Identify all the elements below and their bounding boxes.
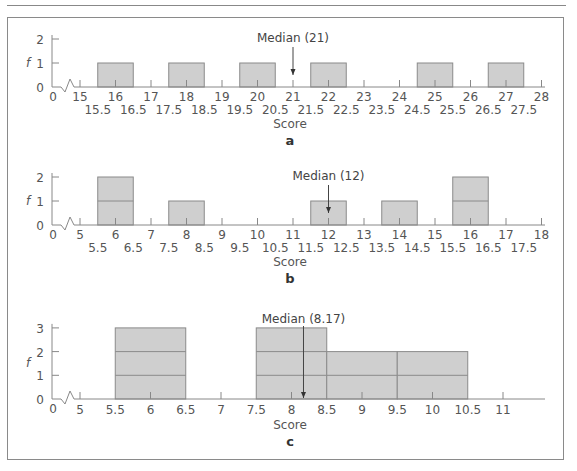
x-tick-label: 24 [392, 90, 407, 104]
x-tick-label: 15 [427, 228, 442, 242]
y-tick-label: 0 [36, 393, 44, 407]
x-boundary-label: 22.5 [333, 103, 360, 117]
histogram-bar [256, 328, 327, 399]
x-boundary-label: 18.5 [191, 103, 218, 117]
x-tick-label: 9.5 [388, 403, 407, 417]
x-origin-label: 0 [49, 402, 57, 416]
median-label: Median (12) [292, 169, 364, 183]
x-tick-label: 10 [250, 228, 265, 242]
x-boundary-label: 23.5 [368, 103, 395, 117]
panel-label: c [286, 434, 294, 449]
panel-b: 012f0567891011121314151617185.56.57.58.5… [26, 169, 549, 286]
y-tick-label: 1 [36, 57, 44, 71]
x-origin-label: 0 [49, 90, 57, 104]
panel-c: 0123f055.566.577.588.599.51010.511Scorec… [26, 312, 545, 449]
panel-a: 012f0151617181920212223242526272815.516.… [26, 31, 549, 148]
x-boundary-label: 10.5 [262, 241, 289, 255]
x-tick-label: 11 [285, 228, 300, 242]
x-tick-label: 27 [498, 90, 513, 104]
y-axis-label: f [26, 356, 32, 370]
x-axis-title: Score [273, 117, 307, 131]
x-boundary-label: 17.5 [510, 241, 537, 255]
x-boundary-label: 15.5 [439, 241, 466, 255]
x-tick-label: 6.5 [176, 403, 195, 417]
x-tick-label: 8 [288, 403, 296, 417]
x-boundary-label: 19.5 [226, 103, 253, 117]
y-tick-label: 0 [36, 219, 44, 233]
x-tick-label: 5 [76, 403, 84, 417]
x-boundary-label: 15.5 [84, 103, 111, 117]
x-tick-label: 16 [463, 228, 478, 242]
x-tick-label: 23 [356, 90, 371, 104]
x-tick-label: 17 [143, 90, 158, 104]
x-tick-label: 28 [534, 90, 549, 104]
x-tick-label: 6 [147, 403, 155, 417]
y-tick-label: 2 [36, 171, 44, 185]
x-tick-label: 7.5 [247, 403, 266, 417]
x-boundary-label: 24.5 [404, 103, 431, 117]
x-tick-label: 15 [72, 90, 87, 104]
y-axis-label: f [26, 194, 32, 208]
x-boundary-label: 5.5 [88, 241, 107, 255]
x-tick-label: 10.5 [454, 403, 481, 417]
histogram-bar [115, 328, 186, 399]
x-boundary-label: 26.5 [475, 103, 502, 117]
x-boundary-label: 12.5 [333, 241, 360, 255]
x-tick-label: 10 [425, 403, 440, 417]
x-tick-label: 5 [76, 228, 84, 242]
panel-label: a [286, 133, 295, 148]
x-boundary-label: 20.5 [262, 103, 289, 117]
median-label: Median (8.17) [262, 312, 346, 326]
x-tick-label: 8 [183, 228, 191, 242]
x-tick-label: 11 [495, 403, 510, 417]
x-tick-label: 20 [250, 90, 265, 104]
x-tick-label: 14 [392, 228, 407, 242]
x-tick-label: 12 [321, 228, 336, 242]
x-axis-title: Score [273, 255, 307, 269]
x-tick-label: 13 [356, 228, 371, 242]
x-tick-label: 16 [108, 90, 123, 104]
y-tick-label: 0 [36, 81, 44, 95]
median-arrow-head-icon [291, 69, 296, 75]
x-boundary-label: 21.5 [297, 103, 324, 117]
panel-label: b [285, 271, 294, 286]
x-boundary-label: 6.5 [124, 241, 143, 255]
x-tick-label: 9 [218, 228, 226, 242]
x-boundary-label: 9.5 [230, 241, 249, 255]
x-boundary-label: 16.5 [120, 103, 147, 117]
x-tick-label: 22 [321, 90, 336, 104]
x-tick-label: 6 [112, 228, 120, 242]
x-boundary-label: 17.5 [155, 103, 182, 117]
median-label: Median (21) [257, 31, 329, 45]
x-tick-label: 25 [427, 90, 442, 104]
x-tick-label: 5.5 [106, 403, 125, 417]
y-axis-label: f [26, 56, 32, 70]
y-tick-label: 2 [36, 346, 44, 360]
histogram-figure: 012f0151617181920212223242526272815.516.… [0, 0, 577, 471]
x-tick-label: 17 [498, 228, 513, 242]
x-tick-label: 18 [179, 90, 194, 104]
y-tick-label: 1 [36, 369, 44, 383]
x-boundary-label: 16.5 [475, 241, 502, 255]
x-axis-title: Score [273, 418, 307, 432]
x-origin-label: 0 [49, 228, 57, 242]
x-tick-label: 18 [534, 228, 549, 242]
x-tick-label: 19 [214, 90, 229, 104]
x-tick-label: 8.5 [317, 403, 336, 417]
y-tick-label: 1 [36, 195, 44, 209]
x-boundary-label: 14.5 [404, 241, 431, 255]
x-boundary-label: 13.5 [368, 241, 395, 255]
x-tick-label: 21 [285, 90, 300, 104]
x-tick-label: 7 [217, 403, 225, 417]
y-tick-label: 3 [36, 322, 44, 336]
y-tick-label: 2 [36, 33, 44, 47]
x-tick-label: 7 [147, 228, 155, 242]
x-boundary-label: 8.5 [195, 241, 214, 255]
x-boundary-label: 25.5 [439, 103, 466, 117]
x-boundary-label: 27.5 [510, 103, 537, 117]
x-tick-label: 26 [463, 90, 478, 104]
x-tick-label: 9 [358, 403, 366, 417]
x-boundary-label: 11.5 [297, 241, 324, 255]
x-boundary-label: 7.5 [159, 241, 178, 255]
